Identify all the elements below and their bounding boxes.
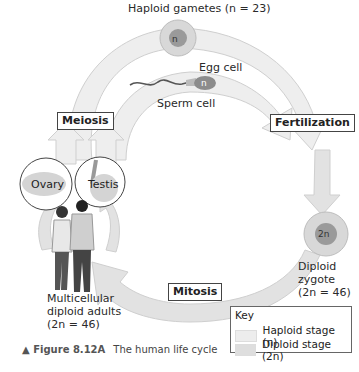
diagram-title: Haploid gametes (n = 23) <box>128 2 271 15</box>
zygote-label-line1: Diploid <box>298 260 336 273</box>
testis-label: Testis <box>88 178 118 191</box>
key-item-label: Diploid stage (2n) <box>262 338 351 362</box>
adults-label-line1: Multicellular <box>47 292 114 305</box>
mitosis-label: Mitosis <box>168 283 222 301</box>
figure-title: The human life cycle <box>113 344 217 355</box>
adult-figures <box>52 200 94 292</box>
fertilization-label: Fertilization <box>270 114 355 132</box>
egg-nucleus-label: n <box>172 33 178 46</box>
key-title: Key <box>235 309 254 321</box>
figure-caption: ▲ Figure 8.12AThe human life cycle <box>22 344 217 355</box>
egg-cell-label: Egg cell <box>199 61 242 74</box>
sperm-nucleus-label: n <box>201 77 207 90</box>
key-legend: Key Haploid stage (n) Diploid stage (2n) <box>230 306 352 353</box>
figure-number: ▲ Figure 8.12A <box>22 344 105 355</box>
egg-cell <box>160 20 196 56</box>
adults-label-line3: (2n = 46) <box>47 318 100 331</box>
zygote-label-line3: (2n = 46) <box>298 286 351 299</box>
diploid-swatch <box>235 344 256 356</box>
sperm-cell-label: Sperm cell <box>157 97 215 110</box>
key-item-diploid: Diploid stage (2n) <box>235 338 351 362</box>
fertilization-arrow <box>304 150 340 215</box>
zygote-nucleus-label: 2n <box>318 228 329 241</box>
meiosis-label: Meiosis <box>57 112 114 130</box>
ovary-label: Ovary <box>31 178 64 191</box>
zygote-label-line2: zygote <box>298 273 335 286</box>
adults-label-line2: diploid adults <box>47 305 121 318</box>
